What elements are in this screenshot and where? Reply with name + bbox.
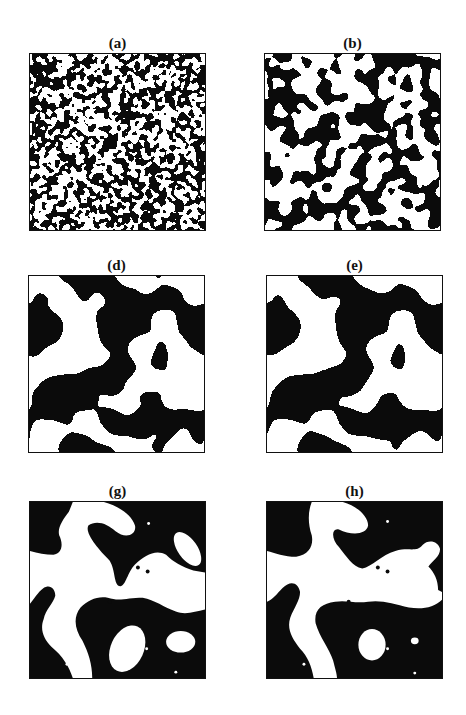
panel-image-h [266, 501, 443, 679]
panel-label-b: (b) [264, 33, 441, 53]
noise-pattern-b [265, 54, 440, 230]
panel-label-e: (e) [266, 255, 443, 275]
domain-pattern-d [29, 276, 204, 452]
panel-image-g [29, 501, 206, 679]
panel-h: (h) [266, 481, 443, 679]
panel-e: (e) [266, 255, 443, 453]
panel-image-b [264, 53, 441, 231]
panel-b: (b) [264, 33, 441, 231]
panel-label-d: (d) [28, 255, 205, 275]
panel-image-d [28, 275, 205, 453]
noise-pattern-a [30, 54, 205, 230]
panel-label-h: (h) [266, 481, 443, 501]
domain-pattern-h [267, 502, 442, 678]
panel-g: (g) [29, 481, 206, 679]
cut-off-header-text: · · · [0, 0, 466, 7]
panel-image-e [266, 275, 443, 453]
panel-a: (a) [29, 33, 206, 231]
panel-d: (d) [28, 255, 205, 453]
panel-image-a [29, 53, 206, 231]
panel-label-a: (a) [29, 33, 206, 53]
domain-pattern-g [30, 502, 205, 678]
panel-label-g: (g) [29, 481, 206, 501]
domain-pattern-e [267, 276, 442, 452]
